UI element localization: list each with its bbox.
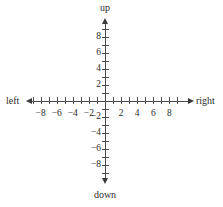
y-axis-tick bbox=[102, 53, 109, 54]
x-axis-tick bbox=[33, 97, 34, 104]
x-axis-tick bbox=[169, 97, 170, 104]
direction-label-up: up bbox=[100, 3, 110, 13]
right-arrowhead-icon bbox=[188, 98, 194, 104]
x-axis-tick bbox=[129, 97, 130, 104]
y-axis-tick bbox=[102, 157, 109, 158]
y-axis-tick-label: 8 bbox=[96, 32, 101, 42]
x-axis-tick-label: 4 bbox=[135, 109, 140, 119]
y-axis-tick-label: −4 bbox=[91, 128, 101, 138]
left-arrowhead-icon bbox=[26, 98, 32, 104]
x-axis-tick bbox=[89, 97, 90, 104]
y-axis-tick-label: 6 bbox=[96, 48, 101, 58]
coordinate-axes-figure: −8−6−4−22468 8642−2−4−6−8 left right up … bbox=[0, 0, 223, 207]
x-axis-tick bbox=[113, 97, 114, 104]
x-axis-tick-label: −6 bbox=[52, 109, 62, 119]
y-axis-tick bbox=[102, 109, 109, 110]
x-axis-tick bbox=[145, 97, 146, 104]
direction-label-down: down bbox=[94, 190, 116, 200]
y-axis-tick-label: −8 bbox=[91, 161, 101, 171]
direction-label-left: left bbox=[6, 96, 19, 106]
x-axis-tick bbox=[57, 97, 58, 104]
y-axis-tick-label: −2 bbox=[91, 112, 101, 122]
x-axis-tick-label: 2 bbox=[119, 109, 124, 119]
down-arrowhead-icon bbox=[102, 178, 108, 184]
y-axis-tick bbox=[102, 45, 109, 46]
x-axis-tick bbox=[73, 97, 74, 104]
y-axis-tick bbox=[102, 69, 109, 70]
y-axis-tick-label: −6 bbox=[91, 145, 101, 155]
y-axis-tick bbox=[102, 173, 109, 174]
x-axis-tick bbox=[121, 97, 122, 104]
y-axis-tick bbox=[102, 125, 109, 126]
y-axis-tick bbox=[102, 149, 109, 150]
y-axis-tick bbox=[102, 61, 109, 62]
x-axis-tick bbox=[153, 97, 154, 104]
x-axis-tick bbox=[65, 97, 66, 104]
y-axis-tick bbox=[102, 93, 109, 94]
x-axis-tick-label: 6 bbox=[151, 109, 156, 119]
x-axis-tick bbox=[137, 97, 138, 104]
x-axis-tick-label: −4 bbox=[68, 109, 78, 119]
up-arrowhead-icon bbox=[102, 18, 108, 24]
y-axis-tick bbox=[102, 29, 109, 30]
y-axis-line bbox=[105, 24, 106, 178]
y-axis-tick-label: 2 bbox=[96, 80, 101, 90]
x-axis-tick bbox=[49, 97, 50, 104]
y-axis-tick bbox=[102, 85, 109, 86]
direction-label-right: right bbox=[196, 96, 215, 106]
y-axis-tick bbox=[102, 141, 109, 142]
y-axis-tick bbox=[102, 133, 109, 134]
x-axis-line bbox=[28, 101, 190, 102]
x-axis-tick-label: −8 bbox=[36, 109, 46, 119]
x-axis-tick bbox=[161, 97, 162, 104]
x-axis-tick bbox=[177, 97, 178, 104]
y-axis-tick bbox=[102, 37, 109, 38]
x-axis-tick bbox=[81, 97, 82, 104]
y-axis-tick bbox=[102, 165, 109, 166]
x-axis-tick-label: 8 bbox=[167, 109, 172, 119]
x-axis-tick bbox=[41, 97, 42, 104]
x-axis-tick bbox=[97, 97, 98, 104]
y-axis-tick bbox=[102, 117, 109, 118]
y-axis-tick bbox=[102, 77, 109, 78]
y-axis-tick-label: 4 bbox=[96, 64, 101, 74]
